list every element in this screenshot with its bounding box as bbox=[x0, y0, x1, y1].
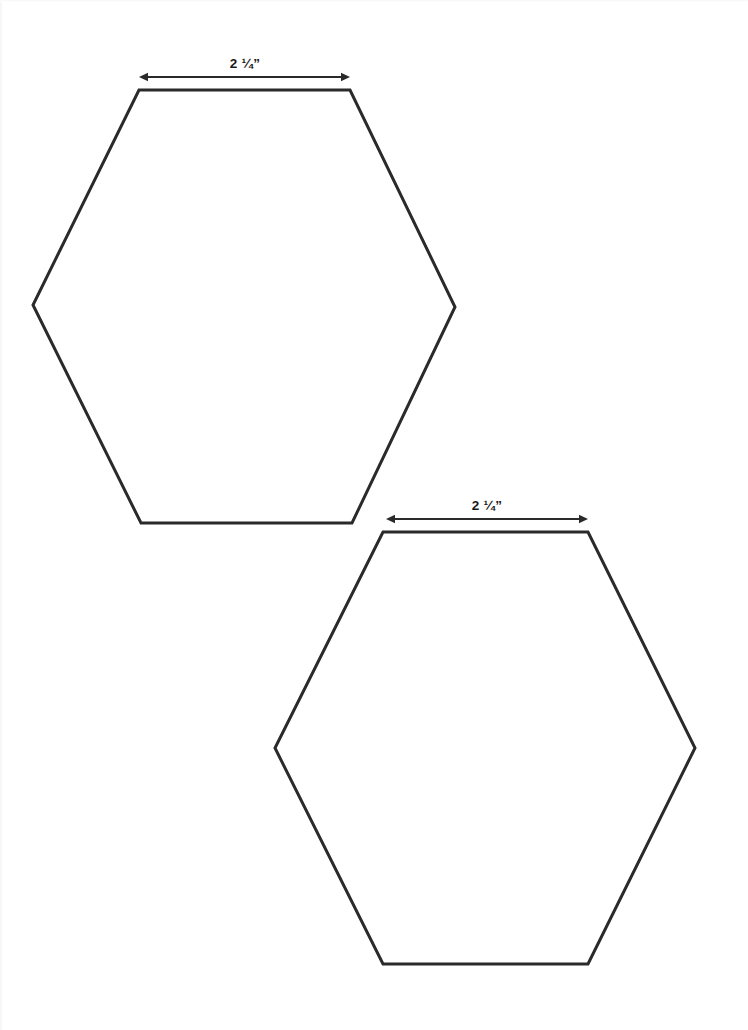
hexagon-1-dimension-label: 2 ¼” bbox=[230, 56, 260, 71]
hexagon-2-outline bbox=[275, 532, 695, 964]
hexagon-2-dimension: 2 ¼” bbox=[386, 498, 588, 523]
hexagon-template-canvas: 2 ¼” 2 ¼” bbox=[0, 0, 748, 1030]
hexagon-1-arrowhead-left bbox=[139, 73, 148, 81]
hexagon-2-arrowhead-left bbox=[386, 515, 395, 523]
hexagon-1-group: 2 ¼” bbox=[33, 56, 455, 523]
template-page: 2 ¼” 2 ¼” bbox=[0, 0, 748, 1030]
hexagon-1-outline bbox=[33, 90, 455, 523]
hexagon-2-group: 2 ¼” bbox=[275, 498, 695, 964]
hexagon-1-dimension: 2 ¼” bbox=[139, 56, 350, 81]
hexagon-2-dimension-label: 2 ¼” bbox=[472, 498, 502, 513]
hexagon-2-arrowhead-right bbox=[579, 515, 588, 523]
hexagon-1-arrowhead-right bbox=[341, 73, 350, 81]
